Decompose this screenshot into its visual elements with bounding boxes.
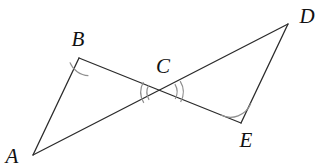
angle-arc-c-left-inner <box>147 85 149 100</box>
angle-arc-e <box>221 104 251 118</box>
geometry-canvas <box>0 0 331 167</box>
segment-ab <box>33 58 79 155</box>
vertex-label-e: E <box>240 130 253 151</box>
vertex-label-c: C <box>156 56 170 77</box>
vertex-label-d: D <box>299 6 314 27</box>
vertex-label-a: A <box>6 146 19 167</box>
angle-arc-b <box>70 62 89 75</box>
geometry-figure: A B C D E <box>0 0 331 167</box>
vertex-label-b: B <box>72 29 85 50</box>
